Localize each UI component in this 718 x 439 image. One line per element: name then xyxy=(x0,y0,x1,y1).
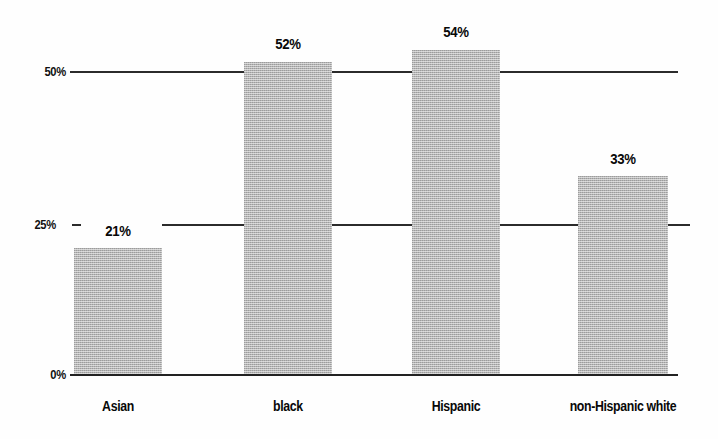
bar-value-label-asian: 21% xyxy=(83,222,153,239)
gridline-25-segment-3 xyxy=(500,224,578,226)
bar-chart: 50% 25% 0% 21% 52% 54% 33% Asian black H… xyxy=(0,0,718,439)
bar-value-label-hispanic: 54% xyxy=(421,23,491,40)
x-axis-category-hispanic: Hispanic xyxy=(386,398,527,414)
gridline-25-segment-4 xyxy=(668,224,690,226)
x-axis-category-black: black xyxy=(218,398,359,414)
bar-non-hispanic-white xyxy=(578,176,668,374)
bar-black xyxy=(244,62,332,374)
gridline-25-segment-1 xyxy=(162,224,244,226)
bar-value-label-non-hispanic-white: 33% xyxy=(588,150,658,167)
gridline-25-segment-2 xyxy=(332,224,412,226)
chart-page: 50% 25% 0% 21% 52% 54% 33% Asian black H… xyxy=(0,0,718,439)
axis-baseline-0 xyxy=(70,374,678,376)
bar-asian xyxy=(74,248,162,374)
y-axis-label-0: 0% xyxy=(16,367,66,382)
y-axis-label-50: 50% xyxy=(16,64,66,79)
x-axis-category-asian: Asian xyxy=(48,398,189,414)
y-axis-label-25: 25% xyxy=(6,217,56,232)
bar-value-label-black: 52% xyxy=(253,35,323,52)
x-axis-category-non-hispanic-white: non-Hispanic white xyxy=(553,398,694,414)
bar-hispanic xyxy=(412,50,500,374)
gridline-50 xyxy=(70,71,678,73)
y-axis-tick-mark-25 xyxy=(72,224,81,226)
